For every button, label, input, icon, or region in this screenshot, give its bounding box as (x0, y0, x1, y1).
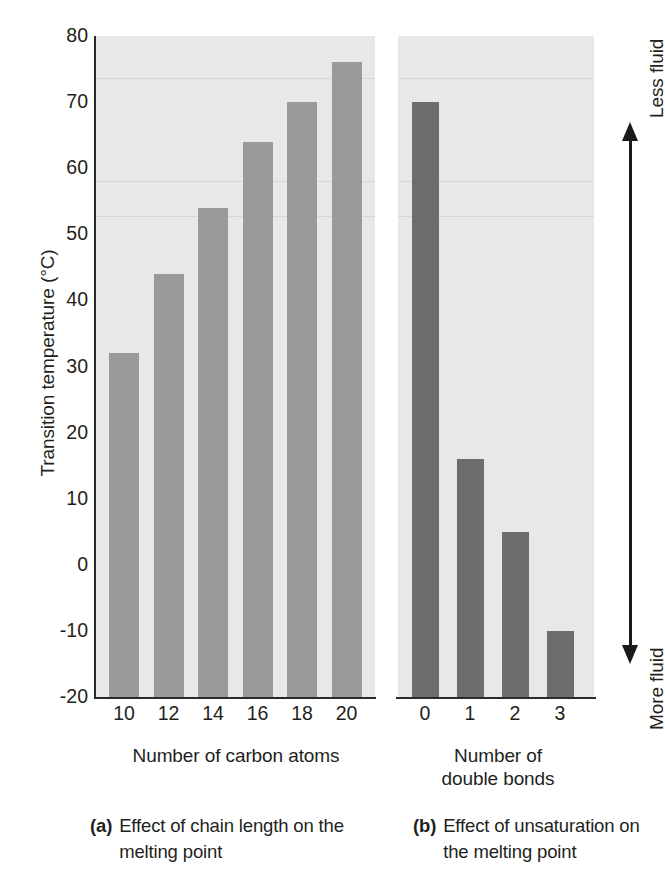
panel-b-plot-area (398, 36, 594, 697)
x-tick-label: 10 (113, 703, 135, 724)
panel-a-baseline (94, 697, 376, 699)
bar (332, 62, 362, 697)
panel-a-x-axis-title: Number of carbon atoms (76, 744, 396, 767)
bar (287, 102, 317, 697)
bar (243, 142, 273, 697)
y-tick-label: 70 (46, 92, 88, 112)
panel-b-x-tick-labels: 0123 (398, 703, 594, 733)
x-tick-label: 3 (555, 703, 566, 724)
y-tick-label: -20 (46, 687, 88, 707)
figure-container: Transition temperature (°C) 807060504030… (0, 0, 665, 879)
panel-a-caption-text: Effect of chain length on the melting po… (119, 813, 380, 864)
panel-b-caption-letter: (b) (413, 813, 436, 839)
y-tick-label: 20 (46, 423, 88, 443)
panel-b-x-axis-title: Number of double bonds (408, 744, 588, 790)
x-tick-label: 2 (510, 703, 521, 724)
bar (154, 274, 184, 697)
x-tick-label: 12 (158, 703, 180, 724)
y-tick-label: 40 (46, 291, 88, 311)
fluidity-scale: Less fluid More fluid (600, 30, 660, 720)
more-fluid-label: More fluid (646, 648, 665, 730)
panel-a-plot-area (96, 36, 375, 697)
panel-a-caption-letter: (a) (90, 813, 112, 839)
bar (412, 102, 439, 697)
panel-b-bars (398, 36, 594, 697)
panel-a-caption: (a) Effect of chain length on the meltin… (90, 813, 380, 864)
y-tick-label: 30 (46, 357, 88, 377)
x-tick-label: 14 (202, 703, 224, 724)
panel-a-x-tick-labels: 101214161820 (96, 703, 375, 733)
x-tick-label: 1 (465, 703, 476, 724)
y-tick-label: 80 (46, 26, 88, 46)
less-fluid-label: Less fluid (646, 39, 665, 118)
arrow-down-icon (622, 645, 638, 664)
bar (198, 208, 228, 697)
panel-b-x-axis-title-line1: Number of (454, 745, 542, 766)
panel-b-caption-text: Effect of unsaturation on the melting po… (443, 813, 663, 864)
panel-b-x-axis-title-line2: double bonds (442, 768, 555, 789)
y-tick-label: -10 (46, 621, 88, 641)
panel-a-bars (96, 36, 375, 697)
arrow-up-icon (622, 122, 638, 141)
x-tick-label: 20 (336, 703, 358, 724)
x-tick-label: 0 (420, 703, 431, 724)
panel-b-caption: (b) Effect of unsaturation on the meltin… (413, 813, 663, 864)
x-tick-label: 18 (291, 703, 313, 724)
x-tick-label: 16 (247, 703, 269, 724)
panel-b-baseline (396, 697, 596, 699)
y-tick-label: 60 (46, 158, 88, 178)
y-tick-label: 0 (46, 555, 88, 575)
y-tick-label: 10 (46, 489, 88, 509)
fluidity-arrow-line (629, 136, 632, 656)
bar (457, 459, 484, 697)
y-axis-ticks: 80706050403020100-10-20 (46, 25, 88, 715)
y-tick-label: 50 (46, 225, 88, 245)
bar (109, 353, 139, 697)
bar (547, 631, 574, 697)
bar (502, 532, 529, 697)
